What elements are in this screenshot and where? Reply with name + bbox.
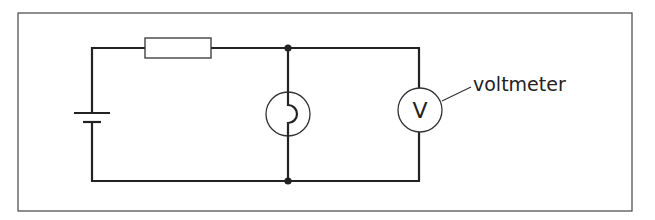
wire-left-top (92, 48, 145, 112)
voltmeter-icon: V (398, 88, 442, 132)
junction-dot-top (284, 44, 291, 51)
circuit-diagram: V voltmeter (0, 0, 655, 220)
wires (92, 48, 419, 181)
wire-bottom (92, 123, 419, 181)
battery-icon (74, 113, 110, 122)
wire-top-right (211, 48, 419, 88)
voltmeter-symbol: V (412, 98, 427, 123)
resistor-icon (145, 38, 211, 58)
voltmeter-label: voltmeter (473, 73, 566, 95)
junction-dot-bottom (284, 177, 291, 184)
label-leader-line (442, 87, 471, 101)
lamp-icon (266, 92, 310, 136)
